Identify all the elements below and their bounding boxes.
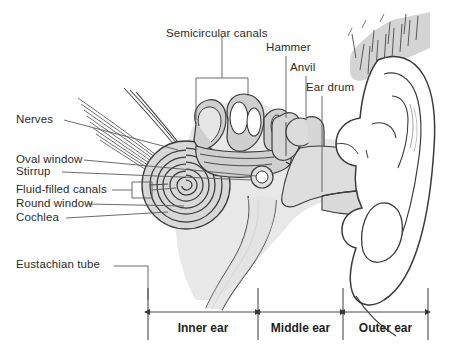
label-anvil: Anvil bbox=[290, 62, 315, 74]
region-label-middle-ear: Middle ear bbox=[260, 322, 341, 334]
diagram-artwork bbox=[0, 0, 454, 354]
label-eustachian-tube: Eustachian tube bbox=[16, 259, 100, 271]
label-round-window: Round window bbox=[16, 198, 93, 210]
stirrup-bone-icon bbox=[251, 166, 273, 188]
label-cochlea: Cochlea bbox=[16, 212, 59, 224]
region-label-outer-ear: Outer ear bbox=[345, 322, 426, 334]
label-nerves: Nerves bbox=[16, 114, 53, 126]
label-semicircular-canals: Semicircular canals bbox=[166, 28, 268, 40]
label-ear-drum: Ear drum bbox=[306, 82, 354, 94]
label-hammer: Hammer bbox=[266, 42, 311, 54]
label-fluid-filled-canals: Fluid-filled canals bbox=[16, 184, 107, 196]
region-label-inner-ear: Inner ear bbox=[150, 322, 256, 334]
ear-anatomy-diagram: Nerves Oval window Stirrup Fluid-filled … bbox=[0, 0, 454, 354]
label-stirrup: Stirrup bbox=[16, 166, 51, 178]
label-oval-window: Oval window bbox=[16, 154, 82, 166]
